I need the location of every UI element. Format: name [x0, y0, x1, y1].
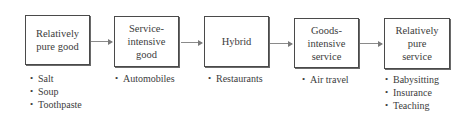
- stage-label: Relatively pure service: [395, 24, 438, 63]
- stage-label: Relatively pure good: [36, 27, 79, 53]
- stage-box-relatively-pure-service: Relatively pure service: [384, 18, 450, 69]
- example-item: Soup: [30, 85, 82, 98]
- arrow-right-icon: [360, 43, 382, 44]
- stage-label: Hybrid: [222, 35, 252, 48]
- stage-label: Service- intensive good: [128, 22, 166, 61]
- example-item: Automobiles: [115, 72, 175, 85]
- stage-box-relatively-pure-good: Relatively pure good: [25, 15, 90, 65]
- stage-box-goods-intensive-service: Goods- intensive service: [294, 18, 359, 68]
- example-item: Insurance: [385, 86, 439, 99]
- example-item: Toothpaste: [30, 98, 82, 111]
- stage-box-hybrid: Hybrid: [204, 16, 269, 67]
- example-item: Babysitting: [385, 73, 439, 86]
- stage-label: Goods- intensive service: [308, 24, 346, 63]
- stage-box-service-intensive-good: Service- intensive good: [114, 16, 179, 67]
- arrow-right-icon: [270, 43, 292, 44]
- arrow-right-icon: [181, 42, 202, 43]
- example-item: Salt: [30, 72, 82, 85]
- examples-list-relatively-pure-service: Babysitting Insurance Teaching: [385, 73, 439, 112]
- example-item: Air travel: [302, 73, 349, 86]
- arrow-right-icon: [91, 41, 112, 42]
- examples-list-service-intensive-good: Automobiles: [115, 72, 175, 85]
- examples-list-hybrid: Restaurants: [208, 72, 263, 85]
- example-item: Teaching: [385, 99, 439, 112]
- examples-list-goods-intensive-service: Air travel: [302, 73, 349, 86]
- examples-list-relatively-pure-good: Salt Soup Toothpaste: [30, 72, 82, 111]
- example-item: Restaurants: [208, 72, 263, 85]
